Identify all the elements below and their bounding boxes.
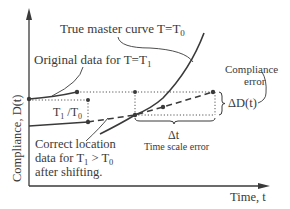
x-axis-title: Time, t xyxy=(230,190,266,204)
y-axis-title: Compliance, D(t) xyxy=(10,95,24,182)
shift-factor-label: T1 /T0 xyxy=(53,105,82,121)
x-axis-arrow-icon xyxy=(258,183,270,189)
compliance-error-label-line1: Compliance xyxy=(225,63,278,75)
correct-location-label-line3: after shifting. xyxy=(35,165,102,179)
compliance-error-label-line2: error xyxy=(244,75,266,87)
delta-t-label: Δt xyxy=(168,128,180,142)
delta-d-label: ΔD(t) xyxy=(228,96,257,110)
master-curve-label: True master curve T=T0 xyxy=(60,21,185,38)
shifted-data-solid xyxy=(29,122,88,126)
delta-d-brace xyxy=(219,92,225,115)
tts-shift-error-diagram: True master curve T=T0 Original data for… xyxy=(0,0,290,209)
time-scale-error-label: Time scale error xyxy=(144,141,210,152)
y-axis-arrow-icon xyxy=(26,8,32,20)
delta-t-brace xyxy=(135,118,215,124)
original-data-label: Original data for T=T1 xyxy=(34,52,151,69)
correct-location-label: Correct location xyxy=(35,137,117,151)
